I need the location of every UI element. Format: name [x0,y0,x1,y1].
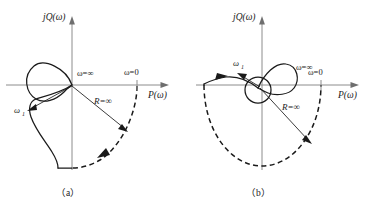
panel-caption-a: （a） [56,187,80,198]
horizontal-axis-b [196,82,359,88]
svg-text:ω: ω [233,58,239,68]
radius-leader-a [72,86,124,128]
omega-one-leader-head-a [27,104,37,111]
svg-text:1: 1 [241,64,244,70]
omega-one-leader-a [32,86,72,108]
flow-direction-arrow-b [215,73,228,80]
vertical-axis-a [69,16,75,170]
horizontal-axis-a [6,82,169,88]
vertical-axis-label-b: jQ(ω) [231,12,256,23]
upper-lobe-b [258,64,297,95]
radius-leader-b [260,88,308,140]
panel-caption-b: （b） [246,187,271,198]
radius-leader-head-b [302,135,312,144]
vertical-axis-b [259,16,265,170]
omega-one-label-b: ω 1 [233,58,244,70]
omega-one-label-a: ω 1 [14,105,25,117]
svg-text:ω: ω [14,105,20,115]
nyquist-figure-pair: jQ(ω) P(ω) ω=∞ ω=0 R=∞ ω 1 （a） [0,0,380,205]
horizontal-axis-label-b: P(ω) [337,90,357,101]
radius-label-b: R=∞ [281,102,300,112]
svg-text:1: 1 [22,111,25,117]
vertical-axis-label-a: jQ(ω) [41,12,66,23]
arc-direction-arrow-a [97,148,110,158]
locus-tail-b [204,77,258,88]
omega-infinity-label-a: ω=∞ [77,68,93,78]
omega-zero-label-b: ω=0 [308,67,323,77]
omega-zero-label-a: ω=0 [124,67,139,77]
horizontal-axis-label-a: P(ω) [147,90,167,101]
nyquist-panel-a: jQ(ω) P(ω) ω=∞ ω=0 R=∞ ω 1 （a） [0,0,190,205]
nyquist-panel-b: jQ(ω) P(ω) ω=∞ ω=0 R=∞ ω 1 （b） [190,0,380,205]
origin-loop-b [245,77,271,103]
radius-label-a: R=∞ [93,96,112,106]
